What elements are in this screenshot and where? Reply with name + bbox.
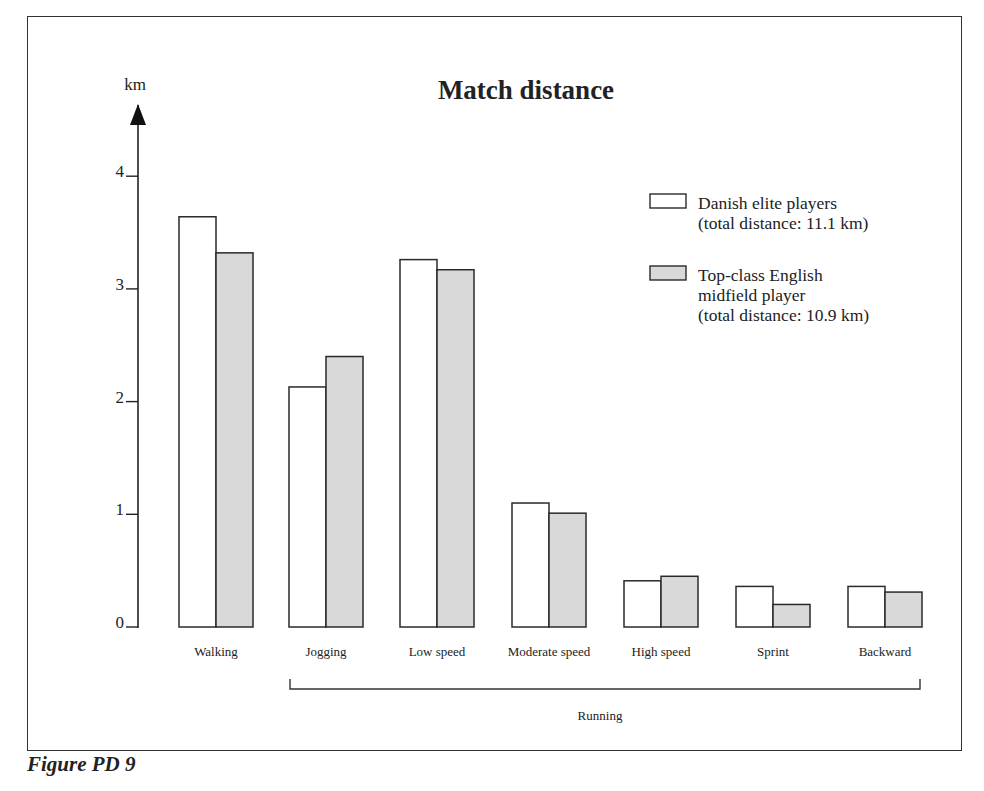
bar xyxy=(773,604,810,627)
category-labels: WalkingJoggingLow speedModerate speedHig… xyxy=(194,644,912,659)
legend-text: (total distance: 10.9 km) xyxy=(698,305,869,325)
bar-group xyxy=(400,260,474,627)
legend-item: Top-class Englishmidfield player(total d… xyxy=(650,265,869,325)
bar xyxy=(624,581,661,627)
bar xyxy=(848,586,885,627)
legend-text: Top-class English xyxy=(698,265,823,285)
bar-group xyxy=(624,576,698,627)
running-bracket: Running xyxy=(290,679,920,723)
bar xyxy=(289,387,326,627)
bar xyxy=(661,576,698,627)
category-label: High speed xyxy=(632,644,691,659)
legend-item: Danish elite players(total distance: 11.… xyxy=(650,193,869,233)
y-tick-label: 2 xyxy=(116,388,125,407)
legend-text: (total distance: 11.1 km) xyxy=(698,213,869,233)
y-axis-label: km xyxy=(124,75,146,94)
y-tick-label: 3 xyxy=(116,275,125,294)
arrow-up-icon xyxy=(130,104,146,125)
bar xyxy=(216,253,253,627)
bar xyxy=(549,513,586,627)
bar-group xyxy=(179,217,253,627)
bar xyxy=(400,260,437,627)
bar-group xyxy=(736,586,810,627)
bar xyxy=(437,270,474,627)
legend-text: Danish elite players xyxy=(698,193,837,213)
bar xyxy=(736,586,773,627)
bar-group xyxy=(848,586,922,627)
y-tick-label: 0 xyxy=(116,613,125,632)
category-label: Moderate speed xyxy=(508,644,591,659)
category-label: Low speed xyxy=(409,644,466,659)
bar xyxy=(885,592,922,627)
category-label: Walking xyxy=(194,644,238,659)
legend-swatch xyxy=(650,266,686,280)
bracket-label: Running xyxy=(578,708,623,723)
category-label: Jogging xyxy=(305,644,347,659)
category-label: Sprint xyxy=(757,644,789,659)
bar-chart: Match distance km 01234 WalkingJoggingLo… xyxy=(0,0,984,791)
y-axis xyxy=(130,104,146,628)
bar-group xyxy=(289,357,363,627)
legend-swatch xyxy=(650,194,686,208)
y-tick-label: 4 xyxy=(116,162,125,181)
legend: Danish elite players(total distance: 11.… xyxy=(650,193,869,325)
bar-group xyxy=(512,503,586,627)
legend-text: midfield player xyxy=(698,285,806,305)
y-axis-ticks: 01234 xyxy=(116,162,139,632)
y-tick-label: 1 xyxy=(116,500,125,519)
chart-title: Match distance xyxy=(438,75,614,105)
figure-caption: Figure PD 9 xyxy=(27,752,136,777)
bar xyxy=(179,217,216,627)
category-label: Backward xyxy=(859,644,912,659)
bar xyxy=(512,503,549,627)
bar xyxy=(326,357,363,627)
